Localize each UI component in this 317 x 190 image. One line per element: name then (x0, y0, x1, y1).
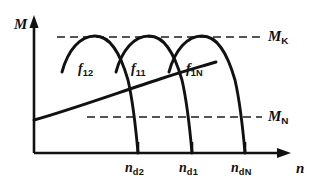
level-label-mk: MK (268, 28, 289, 44)
curve-label-f11: f11 (131, 61, 146, 76)
y-axis-label: M (14, 16, 27, 32)
x-axis-label: n (296, 160, 304, 176)
torque-speed-diagram: M n MK MN f12 f11 f1N nd2 nd1 ndN (0, 0, 317, 190)
level-label-mn: MN (268, 108, 289, 124)
torque-curve-f11 (116, 36, 192, 153)
curve-label-f1n: f1N (186, 61, 203, 76)
curve-label-f12: f12 (78, 61, 93, 76)
y-axis (29, 15, 38, 153)
tick-label-ndn: ndN (231, 160, 252, 175)
tick-label-nd1: nd1 (179, 160, 198, 175)
torque-curve-f1n (169, 36, 245, 153)
tick-label-nd2: nd2 (125, 160, 144, 175)
x-axis (34, 148, 291, 158)
torque-curve-f12 (62, 36, 138, 153)
